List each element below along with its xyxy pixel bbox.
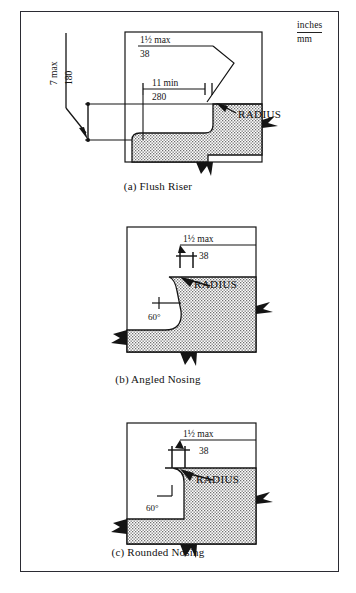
label-angle-c: 60°	[146, 503, 159, 513]
label-radius-c: RADIUS	[196, 473, 239, 485]
label-nosing-mm-c: 38	[199, 446, 209, 456]
break-symbol-right-c	[256, 492, 273, 504]
arrowhead-nosing-c	[175, 440, 184, 449]
caption-rounded-nosing: (c) Rounded Nosing	[0, 546, 336, 558]
figure-page: inches mm 1½ max 38 11 min 280	[0, 0, 356, 593]
panel-rounded-nosing: 1½ max 38 RADIUS 60°	[0, 0, 356, 593]
label-nosing-inches-c: 1½ max	[183, 429, 214, 439]
break-symbol-left-c	[111, 519, 127, 534]
